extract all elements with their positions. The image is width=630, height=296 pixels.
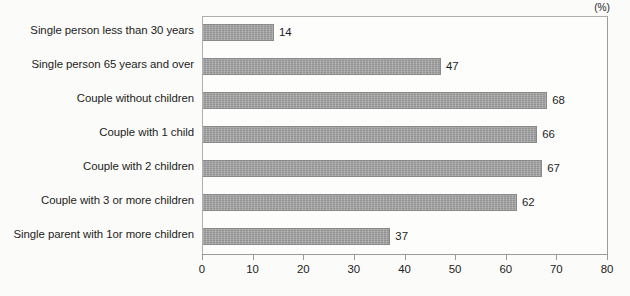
x-axis-tick-label: 20 [297, 262, 310, 276]
bar-value-label: 67 [547, 160, 560, 177]
category-label: Single person 65 years and over [0, 58, 197, 71]
category-label: Couple with 2 children [0, 160, 197, 173]
category-label: Couple with 3 or more children [0, 194, 197, 207]
bar [203, 228, 390, 245]
x-axis-tick [556, 255, 557, 260]
x-axis-tick [607, 255, 608, 260]
x-axis-tick [455, 255, 456, 260]
bar-value-label: 62 [522, 194, 535, 211]
category-label: Couple without children [0, 92, 197, 105]
x-axis-tick-label: 60 [499, 262, 512, 276]
x-axis-tick-label: 80 [601, 262, 614, 276]
bar [203, 58, 441, 75]
bar [203, 126, 537, 143]
bar-value-label: 14 [279, 24, 292, 41]
x-axis-tick [506, 255, 507, 260]
x-axis-tick-label: 70 [550, 262, 563, 276]
bar-chart: (%) Single person less than 30 yearsSing… [0, 0, 630, 296]
x-axis-tick-label: 40 [398, 262, 411, 276]
x-axis-tick [405, 255, 406, 260]
x-axis-tick-label: 0 [199, 262, 205, 276]
plot-area: 14476866676237 [203, 17, 608, 255]
bar-value-label: 37 [395, 228, 408, 245]
unit-note: (%) [594, 2, 610, 14]
bar [203, 24, 274, 41]
x-axis-tick [303, 255, 304, 260]
bar [203, 194, 517, 211]
category-label: Couple with 1 child [0, 126, 197, 139]
x-axis-tick-label: 50 [449, 262, 462, 276]
bar-value-label: 68 [552, 92, 565, 109]
bar-value-label: 66 [542, 126, 555, 143]
x-axis-tick [253, 255, 254, 260]
bar [203, 92, 547, 109]
x-axis-tick-label: 30 [348, 262, 361, 276]
x-axis-tick [354, 255, 355, 260]
x-axis-tick [202, 255, 203, 260]
bar [203, 160, 542, 177]
x-axis-tick-label: 10 [246, 262, 259, 276]
bar-value-label: 47 [446, 58, 459, 75]
category-label: Single parent with 1or more children [0, 228, 197, 241]
category-label-column: Single person less than 30 yearsSingle p… [0, 16, 197, 255]
category-label: Single person less than 30 years [0, 24, 197, 37]
